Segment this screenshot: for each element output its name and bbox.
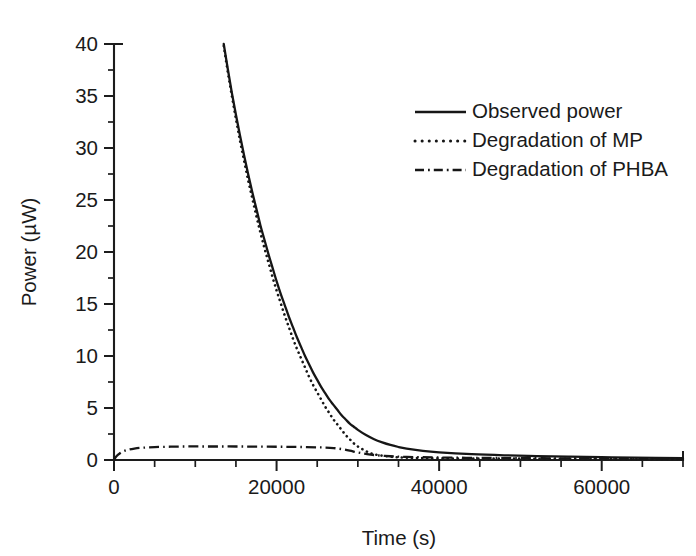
y-tick-label: 35 <box>75 84 98 107</box>
y-tick-label: 40 <box>75 32 98 55</box>
y-tick-label: 0 <box>87 448 98 471</box>
y-tick-label: 5 <box>87 396 98 419</box>
y-tick-label: 30 <box>75 136 98 159</box>
x-tick-label: 60000 <box>573 475 630 498</box>
y-tick-label: 15 <box>75 292 98 315</box>
chart-legend: Observed powerDegradation of MPDegradati… <box>415 99 668 180</box>
x-tick-label: 0 <box>108 475 119 498</box>
x-tick-label: 40000 <box>411 475 468 498</box>
x-axis-title: Time (s) <box>362 526 436 549</box>
legend-label-2: Degradation of PHBA <box>472 157 668 180</box>
y-tick-label: 10 <box>75 344 98 367</box>
y-tick-label: 20 <box>75 240 98 263</box>
legend-label-0: Observed power <box>472 99 623 122</box>
y-axis-title: Power (µW) <box>17 198 40 307</box>
x-tick-label: 20000 <box>248 475 305 498</box>
line-chart: 02000040000600000510152025303540 Observe… <box>0 0 696 556</box>
figure-container: 02000040000600000510152025303540 Observe… <box>0 0 696 556</box>
y-tick-label: 25 <box>75 188 98 211</box>
legend-label-1: Degradation of MP <box>472 128 643 151</box>
